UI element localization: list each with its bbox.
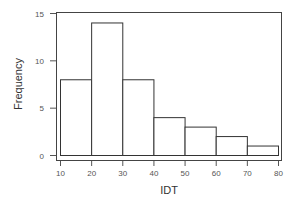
x-tick-label: 40 xyxy=(149,169,158,178)
y-axis: 051015 xyxy=(35,10,56,161)
histogram-bars xyxy=(61,23,279,156)
x-tick-label: 70 xyxy=(243,169,252,178)
x-tick-label: 30 xyxy=(118,169,127,178)
histogram-bar xyxy=(61,80,92,156)
x-tick-label: 20 xyxy=(87,169,96,178)
y-tick-label: 15 xyxy=(35,10,44,19)
histogram-bar xyxy=(154,118,185,156)
x-axis-title: IDT xyxy=(160,184,178,196)
x-tick-label: 50 xyxy=(181,169,190,178)
y-axis-title: Frequency xyxy=(12,58,24,110)
y-tick-label: 5 xyxy=(40,104,45,113)
x-tick-label: 60 xyxy=(212,169,221,178)
y-tick-label: 0 xyxy=(40,152,45,161)
x-tick-label: 80 xyxy=(274,169,283,178)
histogram-bar xyxy=(216,137,247,156)
histogram-bar xyxy=(92,23,123,156)
x-tick-label: 10 xyxy=(56,169,65,178)
histogram-bar xyxy=(123,80,154,156)
histogram-bar xyxy=(185,127,216,155)
histogram-chart: 051015 1020304050607080 IDT Frequency xyxy=(0,0,297,203)
x-axis: 1020304050607080 xyxy=(56,161,283,178)
y-tick-label: 10 xyxy=(35,57,44,66)
histogram-bar xyxy=(247,146,278,155)
